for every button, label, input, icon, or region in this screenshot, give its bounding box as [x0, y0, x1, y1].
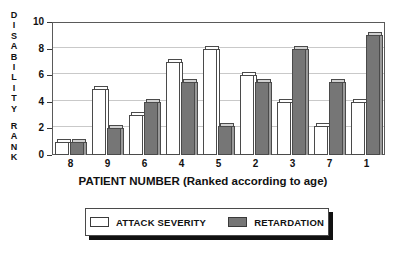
bar-top-edge [294, 46, 308, 49]
x-axis-title: PATIENT NUMBER (Ranked according to age) [0, 174, 406, 188]
legend-item: ATTACK SEVERITY [90, 217, 206, 228]
bar-side-edge [158, 102, 161, 155]
bar-face [277, 102, 291, 155]
bar-group [351, 22, 383, 155]
bar-top-edge [205, 46, 219, 49]
bar [329, 82, 343, 155]
y-axis-title-letter: A [11, 131, 18, 141]
bar [107, 128, 121, 155]
bar-side-edge [269, 82, 272, 155]
bar-face [292, 49, 306, 155]
bar-top-edge [183, 79, 197, 82]
bar-side-edge [343, 82, 346, 155]
legend-label: RETARDATION [254, 217, 324, 228]
bar-group [129, 22, 161, 155]
y-axis-tick [47, 155, 52, 156]
bar-top-edge [368, 32, 382, 35]
bar-top-edge [72, 139, 86, 142]
y-axis-tick-label-wrap: 0 [18, 150, 44, 160]
y-axis-tick-label: 8 [22, 44, 44, 54]
y-axis-title-letter: D [11, 10, 18, 20]
y-axis-title: D I S A B I L I T Y R A N K [6, 10, 22, 170]
bar-group [203, 22, 235, 155]
y-axis-title-letter: T [11, 93, 17, 103]
y-axis-title-letter: S [11, 31, 17, 41]
bar [181, 82, 195, 155]
bar [218, 126, 232, 155]
bar-face [255, 82, 269, 155]
x-axis-tick-label: 2 [244, 158, 268, 170]
bar-side-edge [195, 82, 198, 155]
x-axis-tick-label: 5 [207, 158, 231, 170]
bar [255, 82, 269, 155]
legend-label: ATTACK SEVERITY [116, 217, 206, 228]
y-axis-title-letter: N [11, 142, 18, 152]
y-axis-tick-label: 2 [22, 123, 44, 133]
bar-side-edge [232, 126, 235, 155]
bars-layer [52, 22, 385, 155]
legend-swatch [228, 217, 247, 227]
y-axis-tick-label: 10 [22, 17, 44, 27]
bar [277, 102, 291, 155]
y-axis-tick-label-wrap: 6 [18, 70, 44, 80]
bar-face [129, 115, 143, 155]
y-axis-tick-label-wrap: 4 [18, 97, 44, 107]
bar [240, 75, 254, 155]
x-axis-tick-label: 4 [170, 158, 194, 170]
bar [55, 142, 69, 155]
y-axis-title-letter: I [13, 20, 16, 30]
y-axis-tick-label-wrap: 2 [18, 123, 44, 133]
bar [129, 115, 143, 155]
y-axis-tick-label: 0 [22, 150, 44, 160]
bar-side-edge [380, 35, 383, 155]
bar [203, 49, 217, 155]
bar-top-edge [331, 79, 345, 82]
bar-group [166, 22, 198, 155]
y-axis-title-letter: K [11, 152, 18, 162]
y-axis-title-letter: A [11, 41, 18, 51]
bar-top-edge [242, 72, 256, 75]
y-axis-tick-label: 6 [22, 70, 44, 80]
bar-face [351, 102, 365, 155]
x-axis-tick-labels: 896452371 [52, 158, 385, 172]
x-axis-tick-label: 7 [318, 158, 342, 170]
x-axis-tick-label: 6 [133, 158, 157, 170]
y-axis-title-letter: I [13, 62, 16, 72]
bar-top-edge [220, 123, 234, 126]
bar-face [166, 62, 180, 155]
bar [92, 89, 106, 156]
bar-group [240, 22, 272, 155]
legend-item: RETARDATION [228, 217, 324, 228]
y-axis-title-letter: L [11, 72, 17, 82]
y-axis-tick-label: 4 [22, 97, 44, 107]
bar-face [329, 82, 343, 155]
bar-top-edge [353, 99, 367, 102]
bar-top-edge [257, 79, 271, 82]
bar-chart-figure: D I S A B I L I T Y R A N K 0246810 8964… [0, 0, 406, 255]
legend: ATTACK SEVERITYRETARDATION [85, 208, 329, 236]
y-axis-tick-label-wrap: 8 [18, 44, 44, 54]
y-axis-tick-label-wrap: 10 [18, 17, 44, 27]
y-axis-title-letter: R [11, 121, 18, 131]
bar-face [144, 102, 158, 155]
bar-side-edge [121, 128, 124, 155]
bar-top-edge [57, 139, 71, 142]
bar-side-edge [84, 142, 87, 155]
bar-group [92, 22, 124, 155]
y-axis-title-letter: Y [11, 104, 17, 114]
bar-top-edge [279, 99, 293, 102]
bar-face [55, 142, 69, 155]
bar-face [107, 128, 121, 155]
bar-face [70, 142, 84, 155]
bar [166, 62, 180, 155]
bar-face [366, 35, 380, 155]
legend-swatch [90, 217, 109, 227]
bar-top-edge [146, 99, 160, 102]
bar-face [92, 89, 106, 156]
bar-group [277, 22, 309, 155]
bar [366, 35, 380, 155]
y-axis-title-letter: I [13, 83, 16, 93]
y-axis-title-letter: B [11, 52, 18, 62]
x-axis-tick-label: 1 [355, 158, 379, 170]
bar-side-edge [306, 49, 309, 155]
